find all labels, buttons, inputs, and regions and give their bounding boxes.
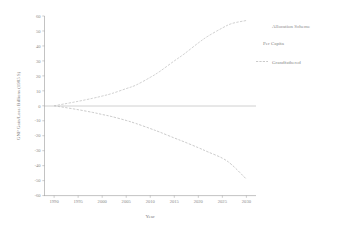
y-axis-title: GNP Gain/Loss: Billions (1985 $)	[16, 71, 21, 140]
line-chart: 6050403020100-10-20-30-40-50-60 19901995…	[0, 0, 337, 233]
y-tick-label: -40	[34, 163, 41, 168]
chart-figure: 6050403020100-10-20-30-40-50-60 19901995…	[0, 0, 337, 233]
x-tick-label: 2005	[122, 199, 132, 204]
legend-label-grandfathered: Grandfathered	[272, 60, 301, 65]
y-tick-label: 60	[36, 14, 41, 19]
x-axis-tick-labels: 199019952000200520102015202020252030	[50, 199, 252, 204]
x-tick-label: 2030	[242, 199, 252, 204]
x-tick-label: 1990	[50, 199, 60, 204]
y-tick-label: 50	[36, 29, 41, 34]
legend-label-per-capita: Per Capita	[263, 41, 285, 46]
y-tick-label: -10	[34, 118, 41, 123]
y-tick-label: -60	[34, 193, 41, 198]
y-tick-label: -20	[34, 133, 41, 138]
x-tick-label: 2000	[98, 199, 108, 204]
y-tick-label: 40	[36, 44, 41, 49]
x-tick-label: 2020	[194, 199, 204, 204]
x-tick-label: 1995	[74, 199, 84, 204]
chart-background	[0, 0, 337, 233]
y-tick-label: 20	[36, 74, 41, 79]
y-tick-label: -50	[34, 178, 41, 183]
y-tick-label: 30	[36, 59, 41, 64]
legend-title: Allocation Scheme	[272, 24, 311, 29]
x-axis-title: Year	[145, 214, 155, 219]
y-tick-label: -30	[34, 148, 41, 153]
x-tick-label: 2015	[170, 199, 180, 204]
x-tick-label: 2010	[146, 199, 156, 204]
y-tick-label: 10	[36, 89, 41, 94]
x-tick-label: 2025	[218, 199, 228, 204]
